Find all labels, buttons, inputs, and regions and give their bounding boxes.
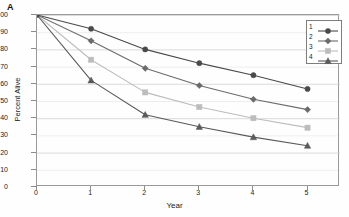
y-tick-label: 0 bbox=[0, 183, 8, 190]
y-tick-label: 70 bbox=[0, 62, 8, 69]
legend-item-label: 4 bbox=[309, 52, 317, 62]
y-tick-label: 40 bbox=[0, 114, 8, 121]
y-axis-title: Percent Alive bbox=[13, 60, 22, 140]
y-tick-label: 20 bbox=[0, 148, 8, 155]
legend-triangle-icon bbox=[317, 52, 339, 62]
y-tick-mark bbox=[31, 14, 36, 15]
plot-area bbox=[36, 14, 339, 186]
data-point-diamond bbox=[304, 107, 310, 113]
y-tick-label: 10 bbox=[0, 165, 8, 172]
y-tick-mark bbox=[31, 48, 36, 49]
data-point-diamond bbox=[142, 65, 148, 71]
data-point-square bbox=[251, 116, 256, 121]
y-tick-label: 100 bbox=[0, 11, 8, 18]
data-point-circle bbox=[305, 86, 310, 91]
x-tick-mark bbox=[307, 186, 308, 191]
legend-item-4[interactable]: 4 bbox=[308, 52, 340, 62]
legend-item-2[interactable]: 2 bbox=[308, 32, 340, 42]
x-tick-mark bbox=[252, 186, 253, 191]
figure-panel: A Percent Alive Year 1234 01020304050607… bbox=[0, 0, 349, 217]
chart-legend: 1234 bbox=[306, 20, 342, 64]
y-tick-label: 60 bbox=[0, 79, 8, 86]
y-tick-mark bbox=[31, 83, 36, 84]
chart-canvas bbox=[37, 15, 340, 187]
data-point-square bbox=[197, 104, 202, 109]
legend-square-icon bbox=[317, 42, 339, 52]
series-line-3 bbox=[37, 15, 308, 128]
data-point-circle bbox=[89, 26, 94, 31]
y-tick-mark bbox=[31, 100, 36, 101]
series-1 bbox=[37, 15, 310, 92]
y-tick-mark bbox=[31, 117, 36, 118]
legend-item-label: 2 bbox=[309, 32, 317, 42]
x-tick-mark bbox=[90, 186, 91, 191]
legend-item-1[interactable]: 1 bbox=[308, 22, 340, 32]
legend-item-label: 3 bbox=[309, 42, 317, 52]
data-point-circle bbox=[197, 61, 202, 66]
legend-diamond-icon bbox=[317, 32, 339, 42]
y-tick-mark bbox=[31, 152, 36, 153]
data-point-square bbox=[89, 57, 94, 62]
legend-circle-icon bbox=[317, 22, 339, 32]
legend-item-label: 1 bbox=[309, 22, 317, 32]
data-point-square bbox=[305, 125, 310, 130]
y-tick-label: 80 bbox=[0, 45, 8, 52]
series-line-1 bbox=[37, 15, 308, 89]
y-tick-mark bbox=[31, 66, 36, 67]
x-tick-mark bbox=[198, 186, 199, 191]
y-tick-label: 90 bbox=[0, 28, 8, 35]
data-point-circle bbox=[251, 73, 256, 78]
series-line-2 bbox=[37, 15, 308, 110]
legend-symbol bbox=[317, 56, 339, 66]
x-axis-title: Year bbox=[0, 201, 349, 210]
y-tick-mark bbox=[31, 134, 36, 135]
legend-item-3[interactable]: 3 bbox=[308, 42, 340, 52]
data-point-diamond bbox=[88, 38, 94, 44]
series-3 bbox=[37, 15, 310, 130]
x-tick-mark bbox=[36, 186, 37, 191]
y-tick-label: 50 bbox=[0, 97, 8, 104]
gridlines bbox=[37, 16, 340, 171]
y-tick-mark bbox=[31, 31, 36, 32]
data-point-circle bbox=[143, 47, 148, 52]
y-tick-label: 30 bbox=[0, 131, 8, 138]
data-point-diamond bbox=[196, 82, 202, 88]
data-point-triangle bbox=[142, 111, 148, 117]
y-tick-mark bbox=[31, 169, 36, 170]
x-tick-mark bbox=[144, 186, 145, 191]
data-point-square bbox=[143, 90, 148, 95]
